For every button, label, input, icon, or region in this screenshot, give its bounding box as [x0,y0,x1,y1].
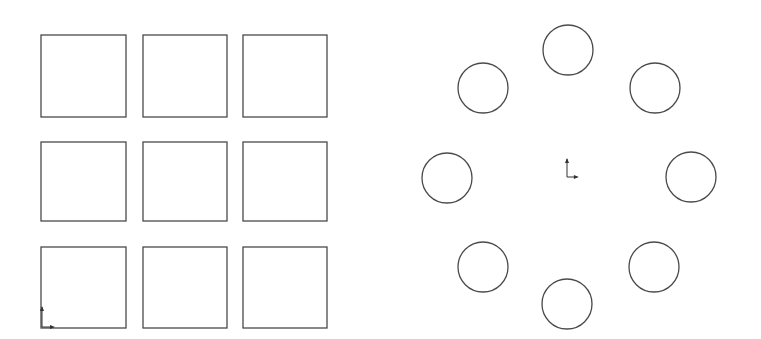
origin-axis-icon [565,158,579,179]
origin-axis-icon [40,306,55,329]
square-r1c1 [41,35,126,117]
square-r1c2 [143,35,227,117]
circle-bottom [542,279,592,329]
circle-top [543,25,593,75]
square-r1c3 [243,35,327,117]
square-r3c1 [41,247,126,328]
circle-left [422,153,472,203]
square-r2c3 [243,142,327,221]
square-r2c1 [41,142,126,221]
circle-top-left [458,63,508,113]
diagram-canvas [0,0,761,339]
square-grid-pattern [41,35,327,328]
circle-bottom-left [458,242,508,292]
circle-right [666,152,716,202]
square-r2c2 [143,142,227,221]
x-arrow-icon [574,175,579,179]
circle-top-right [630,63,680,113]
square-r3c3 [243,247,327,328]
square-r3c2 [143,247,227,328]
circle-bottom-right [629,242,679,292]
y-arrow-icon [565,158,569,163]
